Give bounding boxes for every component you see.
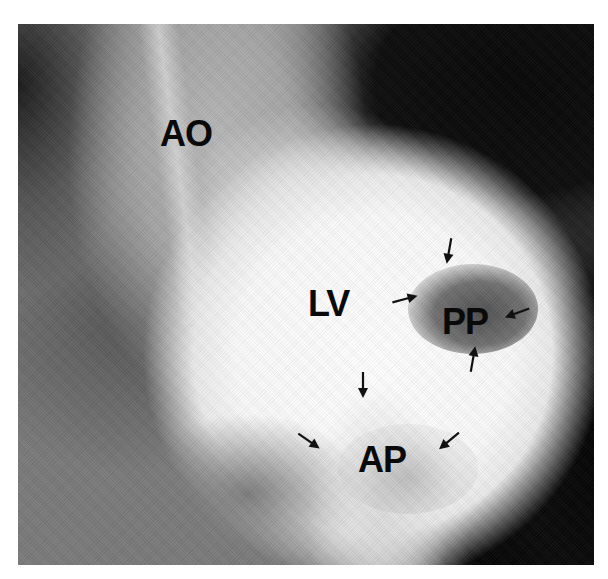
arrow-icon (458, 344, 488, 374)
arrow-icon (350, 372, 376, 398)
angiogram-image: AO LV PP AP (18, 24, 594, 565)
label-anterior-papillary: AP (358, 442, 406, 478)
film-grain (18, 24, 594, 565)
arrow-icon (434, 236, 464, 266)
label-aorta: AO (160, 116, 212, 152)
label-posterior-papillary: PP (442, 304, 488, 340)
label-left-ventricle: LV (308, 286, 349, 322)
